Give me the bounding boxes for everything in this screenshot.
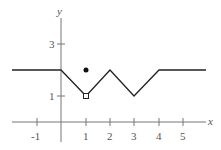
function-line (12, 70, 206, 96)
x-tick-label: 5 (180, 130, 186, 142)
y-axis-label: y (56, 5, 62, 17)
filled-dot-marker (84, 68, 89, 73)
x-tick-label: -1 (31, 130, 40, 142)
x-tick-label: 3 (131, 130, 137, 142)
y-tick-label: 3 (49, 38, 55, 50)
x-axis-label: x (207, 115, 213, 127)
function-graph: -1 1 2 3 4 5 1 3 x y (0, 0, 221, 150)
open-circle-marker (84, 94, 89, 99)
y-tick-label: 1 (49, 90, 55, 102)
x-tick-label: 2 (107, 130, 113, 142)
x-tick-label: 1 (83, 130, 89, 142)
x-tick-label: 4 (156, 130, 162, 142)
